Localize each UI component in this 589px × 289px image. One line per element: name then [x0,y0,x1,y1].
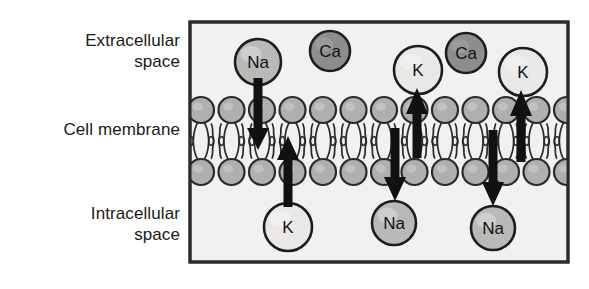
lipid-head-circle [371,97,397,123]
lipid-head-circle [188,97,214,123]
lipid-head [188,97,214,123]
lipid-head [341,97,367,123]
lipid-head-circle [219,97,245,123]
lipid-head [310,159,336,185]
lipid-head [219,97,245,123]
lipid-head-highlight [223,102,233,110]
lipid-head-highlight [498,102,508,110]
lipid-tail [570,122,580,145]
lipid-tail [570,137,580,160]
lipid-head-highlight [223,164,233,172]
lipid-head [463,97,489,123]
ion-label: Ca [455,44,477,63]
ion-na-intracellular-1[interactable]: Na [372,201,416,245]
ion-label: K [517,63,529,82]
lipid-head-highlight [345,102,355,110]
lipid-head [371,97,397,123]
label-intracellular-space: Intracellular space [4,203,180,245]
lipid-head [280,97,306,123]
lipid-head-highlight [376,164,386,172]
lipid-head-highlight [467,164,477,172]
lipid-head-circle [402,159,428,185]
lipid-head-highlight [437,164,447,172]
lipid-head [249,159,275,185]
ion-ca-extracellular-2[interactable]: Ca [446,33,486,73]
ion-label: K [282,218,294,237]
ion-k-extracellular-1[interactable]: K [394,46,442,94]
lipid-head-circle [341,97,367,123]
lipid-head-highlight [528,164,538,172]
lipid-head-highlight [498,164,508,172]
lipid-head-circle [310,159,336,185]
lipid-head-circle [188,159,214,185]
lipid-head-circle [432,97,458,123]
lipid-head-highlight [193,102,203,110]
label-extracellular-space: Extracellular space [4,30,180,72]
lipid-head-circle [219,159,245,185]
lipid-head-highlight [467,102,477,110]
lipid-head-circle [432,159,458,185]
lipid-head-highlight [284,102,294,110]
ion-label: K [412,61,424,80]
lipid-head [524,159,550,185]
ion-label: Na [247,53,269,72]
lipid-head [219,159,245,185]
lipid-head [188,159,214,185]
lipid-head [402,159,428,185]
lipid-head [310,97,336,123]
lipid-head-highlight [193,164,203,172]
lipid-head-highlight [254,164,264,172]
lipid-head-highlight [376,102,386,110]
lipid-head-circle [341,159,367,185]
lipid-head-circle [463,159,489,185]
lipid-head [432,159,458,185]
lipid-head [341,159,367,185]
lipid-head-highlight [528,102,538,110]
ion-label: Ca [319,42,341,61]
lipid-head-circle [463,97,489,123]
lipid-head-highlight [406,164,416,172]
ion-ca-extracellular-1[interactable]: Ca [310,31,350,71]
lipid-head-highlight [315,102,325,110]
ion-na-intracellular-2[interactable]: Na [471,206,515,250]
lipid-head [463,159,489,185]
ion-label: Na [482,219,504,238]
ion-label: Na [383,214,405,233]
lipid-head-circle [280,97,306,123]
ion-k-intracellular-1[interactable]: K [264,203,312,251]
ion-k-extracellular-2[interactable]: K [499,48,547,96]
lipid-head-highlight [437,102,447,110]
lipid-head-circle [310,97,336,123]
lipid-head-highlight [345,164,355,172]
lipid-head-highlight [315,164,325,172]
lipid-head-circle [524,159,550,185]
lipid-head [432,97,458,123]
label-cell-membrane: Cell membrane [4,119,180,140]
lipid-head-circle [249,159,275,185]
diagram-stage: Extracellular space Cell membrane Intrac… [0,0,589,289]
